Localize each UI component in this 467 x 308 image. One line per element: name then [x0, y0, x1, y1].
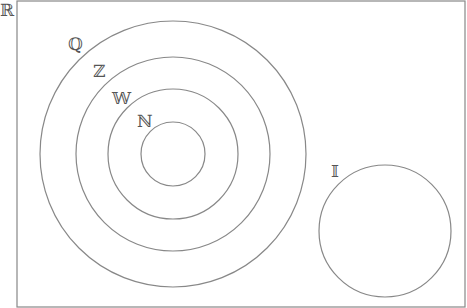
circle-whole-numbers — [108, 89, 238, 219]
circle-irrational-numbers — [319, 165, 451, 297]
universe-real-numbers-box — [17, 1, 465, 307]
label-real-numbers: ℝ — [0, 2, 14, 19]
label-integers: ℤ — [93, 63, 105, 80]
label-irrational-numbers: 𝕀 — [331, 163, 339, 180]
label-natural-numbers: ℕ — [137, 113, 153, 130]
label-whole-numbers: 𝕎 — [112, 90, 131, 107]
circle-rational-numbers — [40, 21, 306, 287]
circle-integers-numbers — [76, 57, 270, 251]
circle-natural-numbers — [141, 122, 205, 186]
label-rational-numbers: ℚ — [68, 36, 83, 53]
